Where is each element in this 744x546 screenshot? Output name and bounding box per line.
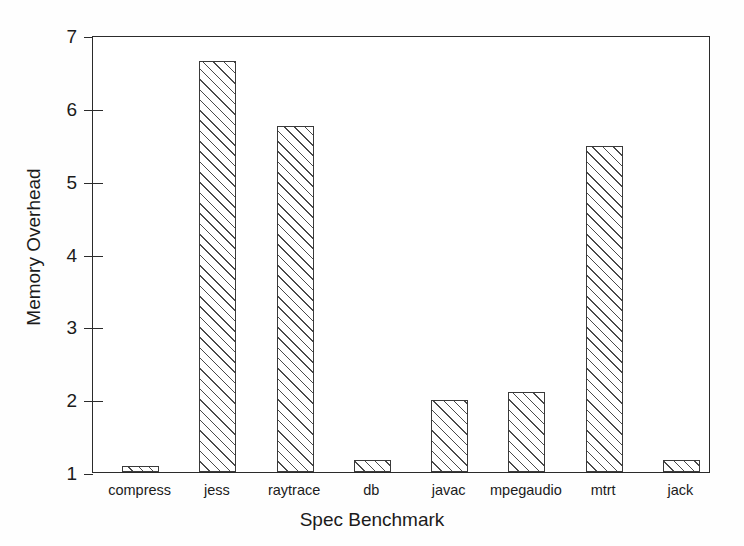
- plot-area: 1234567: [92, 36, 710, 473]
- y-axis-tick: 2: [84, 401, 93, 402]
- y-axis-tick: 6: [84, 110, 93, 111]
- x-axis-tick-label-mpegaudio: mpegaudio: [490, 482, 562, 499]
- y-axis-tick-label: 7: [66, 27, 77, 47]
- y-axis-tick: 4: [84, 256, 93, 257]
- y-axis-tick: 1: [84, 474, 93, 475]
- y-axis-tick-inner: [93, 183, 103, 184]
- y-axis-tick-inner: [93, 328, 103, 329]
- x-axis-title: Spec Benchmark: [0, 508, 744, 532]
- y-axis-tick-label: 6: [66, 100, 77, 120]
- x-axis-tick-label-mtrt: mtrt: [591, 482, 616, 499]
- bar-mtrt: [586, 146, 623, 472]
- bar-javac: [431, 400, 468, 472]
- x-axis-tick-label-compress: compress: [108, 482, 171, 499]
- y-axis-tick-inner: [93, 110, 103, 111]
- y-axis-title: Memory Overhead: [23, 117, 45, 377]
- y-axis-tick-label: 3: [66, 318, 77, 338]
- bar-jack: [663, 460, 700, 472]
- y-axis-tick-label: 2: [66, 391, 77, 411]
- y-axis-tick: 3: [84, 328, 93, 329]
- x-axis-tick-label-jack: jack: [667, 482, 693, 499]
- x-axis-tick-label-db: db: [363, 482, 379, 499]
- x-axis-tick-label-raytrace: raytrace: [268, 482, 320, 499]
- bar-compress: [122, 466, 159, 472]
- bar-jess: [199, 61, 236, 472]
- bar-db: [354, 460, 391, 472]
- y-axis-tick-inner: [93, 256, 103, 257]
- memory-overhead-bar-chart: Memory Overhead 1234567 Spec Benchmark c…: [0, 0, 744, 546]
- y-axis-tick-label: 4: [66, 246, 77, 266]
- bar-raytrace: [277, 126, 314, 472]
- y-axis-tick-label: 1: [66, 464, 77, 484]
- y-axis-tick-label: 5: [66, 173, 77, 193]
- x-axis-tick-label-jess: jess: [204, 482, 230, 499]
- x-axis-tick-label-javac: javac: [432, 482, 466, 499]
- y-axis-tick-inner: [93, 401, 103, 402]
- y-axis-tick: 7: [84, 37, 93, 38]
- bar-mpegaudio: [508, 392, 545, 472]
- y-axis-tick: 5: [84, 183, 93, 184]
